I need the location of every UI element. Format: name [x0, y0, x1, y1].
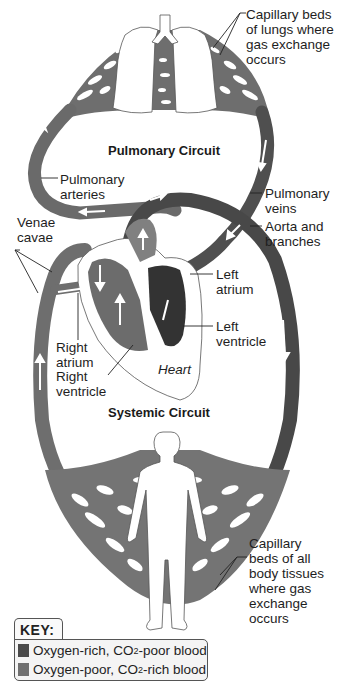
swatch-oxygen-poor	[18, 663, 29, 676]
systemic-circuit-title: Systemic Circuit	[108, 405, 210, 420]
legend-label-prefix: Oxygen-rich, CO	[33, 643, 134, 658]
lung-capillary-bed	[60, 30, 270, 120]
legend-label-suffix: -poor blood	[139, 643, 207, 658]
heart-label: Heart	[158, 362, 191, 377]
label-left-ventricle: Left ventricle	[216, 319, 266, 349]
legend-title: KEY:	[14, 618, 63, 641]
label-right-atrium: Right atrium	[56, 340, 94, 370]
legend-label-suffix: -rich blood	[143, 662, 206, 677]
legend-item-oxygen-rich: Oxygen-rich, CO2-poor blood	[18, 642, 207, 659]
label-capillary-body: Capillary beds of all body tissues where…	[249, 536, 324, 626]
label-pulmonary-veins: Pulmonary veins	[265, 186, 330, 216]
label-capillary-lungs: Capillary beds of lungs where gas exchan…	[246, 7, 334, 67]
label-pulmonary-arteries: Pulmonary arteries	[60, 172, 125, 202]
label-left-atrium: Left atrium	[216, 267, 254, 297]
legend-box: Oxygen-rich, CO2-poor blood Oxygen-poor,…	[14, 639, 208, 681]
pulmonary-vein-vessel	[185, 112, 268, 270]
pulmonary-circuit-title: Pulmonary Circuit	[108, 143, 220, 158]
label-right-ventricle: Right ventricle	[56, 369, 106, 399]
swatch-oxygen-rich	[18, 644, 29, 657]
legend-item-oxygen-poor: Oxygen-poor, CO2-rich blood	[18, 661, 206, 678]
label-venae-cavae: Venae cavae	[17, 215, 55, 245]
label-aorta: Aorta and branches	[265, 219, 324, 249]
legend-label-prefix: Oxygen-poor, CO	[33, 662, 138, 677]
